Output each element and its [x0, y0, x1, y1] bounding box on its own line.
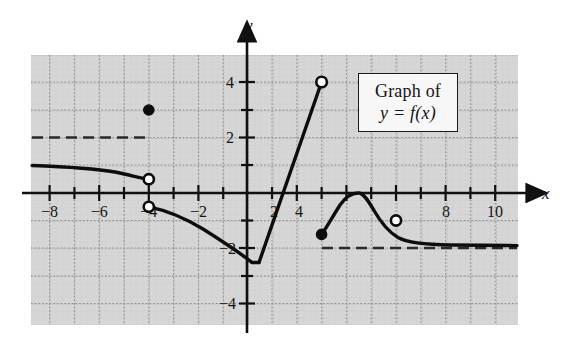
ytick-2: 2: [226, 129, 234, 146]
xtick-minus6: −6: [91, 203, 108, 220]
y-axis-label: y: [245, 16, 253, 36]
ytick-4: 4: [226, 74, 234, 91]
legend-paren-close: ): [430, 103, 436, 123]
graph-canvas: −8 −6 −4 −2 2 4 8 10 4 2 −2 −4: [0, 0, 562, 346]
legend-line-2: y = f(x): [380, 103, 436, 124]
legend-box: Graph of y = f(x): [358, 73, 458, 132]
open-point-minus4-minus1: [144, 202, 154, 212]
open-point-6-minus1: [391, 215, 401, 225]
figure-page: −8 −6 −4 −2 2 4 8 10 4 2 −2 −4: [0, 0, 562, 346]
legend-equals: =: [388, 103, 410, 123]
xtick-minus2: −2: [190, 203, 207, 220]
open-point-minus4-1: [144, 174, 154, 184]
legend-x: x: [421, 103, 429, 123]
xtick-8: 8: [442, 203, 450, 220]
xtick-10: 10: [487, 203, 503, 220]
ytick-minus4: −4: [219, 295, 236, 312]
xtick-4: 4: [295, 203, 303, 220]
filled-point-3-minus3: [317, 229, 327, 239]
xtick-minus8: −8: [41, 203, 58, 220]
legend-line-1: Graph of: [375, 81, 441, 102]
x-axis-label: x: [542, 184, 550, 204]
open-point-3-4: [316, 77, 327, 88]
filled-point-minus4-3: [144, 105, 154, 115]
